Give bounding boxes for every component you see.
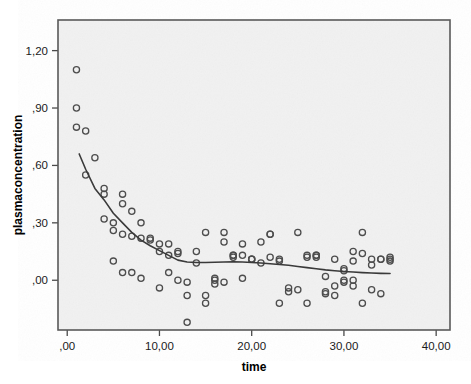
y-tick-label: ,60 [32, 159, 48, 171]
plot-canvas: ,00,30,60,901,20 ,0010,0020,0030,0040,00… [0, 0, 471, 384]
y-tick-label: ,90 [32, 102, 48, 114]
x-tick-label: 40,00 [422, 340, 451, 352]
x-axis-title: time [242, 360, 267, 374]
y-tick-label: 1,20 [26, 45, 48, 57]
paper-texture [58, 20, 450, 330]
y-tick-label: ,30 [32, 217, 48, 229]
x-tick-label: 10,00 [145, 340, 174, 352]
x-tick-label: 20,00 [237, 340, 266, 352]
scatter-plot-figure: ,00,30,60,901,20 ,0010,0020,0030,0040,00… [0, 0, 471, 384]
x-tick-label: ,00 [59, 340, 75, 352]
y-axis-title: plasmaconcentration [11, 115, 25, 236]
x-tick-label: 30,00 [330, 340, 359, 352]
y-tick-label: ,00 [32, 274, 48, 286]
